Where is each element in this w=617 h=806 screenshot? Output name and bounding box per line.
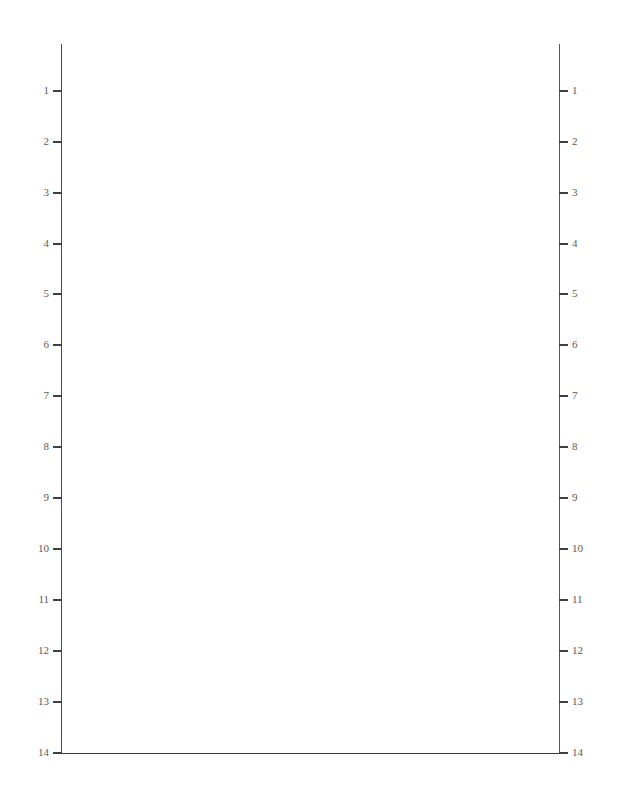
tick-mark-right	[558, 497, 568, 499]
tick-label-right: 3	[572, 187, 578, 198]
tick-mark-right	[558, 650, 568, 652]
tick-mark-right	[558, 395, 568, 397]
tick-label-right: 7	[572, 390, 578, 401]
chart-page: 1234567891011121314 1234567891011121314	[0, 0, 617, 806]
tick-mark-right	[558, 293, 568, 295]
tick-label-left: 4	[44, 238, 50, 249]
tick-label-right: 2	[572, 136, 578, 147]
tick-mark-right	[558, 90, 568, 92]
tick-mark-right	[558, 141, 568, 143]
tick-label-left: 7	[44, 390, 50, 401]
plot-area[interactable]	[62, 44, 559, 753]
tick-label-right: 1	[572, 85, 578, 96]
tick-label-left: 3	[44, 187, 50, 198]
tick-mark-right	[558, 446, 568, 448]
tick-label-right: 14	[572, 747, 583, 758]
tick-label-right: 8	[572, 441, 578, 452]
tick-mark-right	[558, 752, 568, 754]
tick-label-left: 13	[38, 696, 49, 707]
tick-label-right: 9	[572, 492, 578, 503]
tick-mark-right	[558, 548, 568, 550]
tick-label-right: 5	[572, 288, 578, 299]
tick-label-left: 2	[44, 136, 50, 147]
tick-label-left: 10	[38, 543, 49, 554]
tick-label-right: 10	[572, 543, 583, 554]
tick-label-right: 12	[572, 645, 583, 656]
tick-label-right: 11	[572, 594, 583, 605]
tick-label-left: 12	[38, 645, 49, 656]
tick-mark-right	[558, 701, 568, 703]
tick-label-left: 1	[44, 85, 50, 96]
tick-mark-right	[558, 243, 568, 245]
tick-label-left: 8	[44, 441, 50, 452]
tick-label-right: 4	[572, 238, 578, 249]
tick-label-left: 6	[44, 339, 50, 350]
tick-label-left: 14	[38, 747, 49, 758]
tick-label-right: 13	[572, 696, 583, 707]
tick-mark-right	[558, 192, 568, 194]
tick-label-left: 9	[44, 492, 50, 503]
tick-mark-right	[558, 599, 568, 601]
tick-mark-right	[558, 344, 568, 346]
tick-label-right: 6	[572, 339, 578, 350]
tick-label-left: 5	[44, 288, 50, 299]
tick-label-left: 11	[38, 594, 49, 605]
